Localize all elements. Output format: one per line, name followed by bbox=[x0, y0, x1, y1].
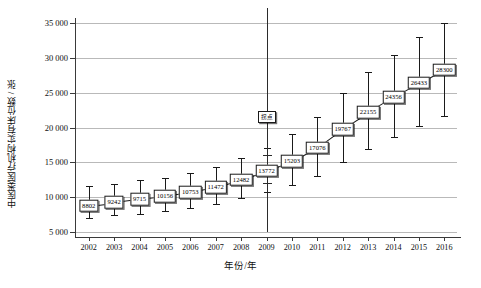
turning-point-cap bbox=[263, 183, 272, 184]
data-label-box: 28300 bbox=[433, 63, 455, 76]
error-bar-cap-lower bbox=[238, 198, 245, 199]
data-label-box: 19767 bbox=[331, 123, 353, 136]
y-axis-tick bbox=[70, 128, 76, 129]
data-label-box: 9242 bbox=[105, 196, 124, 209]
x-axis-tick-label: 2010 bbox=[284, 243, 300, 252]
error-bar-cap-lower bbox=[111, 215, 118, 216]
x-axis-tick-label: 2002 bbox=[81, 243, 97, 252]
error-bar-cap-lower bbox=[213, 204, 220, 205]
y-axis-tick bbox=[70, 232, 76, 233]
error-bar-cap-upper bbox=[416, 37, 423, 38]
error-bar-cap-lower bbox=[289, 185, 296, 186]
x-axis-tick bbox=[368, 237, 369, 241]
data-label-box: 11472 bbox=[205, 181, 227, 194]
x-axis-tick bbox=[165, 237, 166, 241]
error-bar-cap-upper bbox=[441, 23, 448, 24]
error-bar-cap-upper bbox=[162, 178, 169, 179]
x-axis-tick-label: 2016 bbox=[436, 243, 452, 252]
data-label-box: 13772 bbox=[255, 165, 277, 178]
data-label-box: 10156 bbox=[154, 190, 176, 203]
x-axis-tick bbox=[343, 237, 344, 241]
y-axis-tick bbox=[70, 162, 76, 163]
x-axis-tick bbox=[317, 237, 318, 241]
x-axis-tick-label: 2004 bbox=[131, 243, 147, 252]
y-axis-tick bbox=[70, 93, 76, 94]
x-axis-tick bbox=[241, 237, 242, 241]
error-bar-cap-upper bbox=[314, 117, 321, 118]
error-bar-cap-lower bbox=[187, 208, 194, 209]
x-axis-tick bbox=[114, 237, 115, 241]
x-axis-tick bbox=[419, 237, 420, 241]
data-label-box: 10753 bbox=[179, 186, 201, 199]
data-label-box: 12482 bbox=[230, 174, 252, 187]
chart-overlay: 2002200320042005200620072008200920102011… bbox=[0, 0, 481, 288]
error-bar-cap-upper bbox=[365, 72, 372, 73]
x-axis-tick-label: 2012 bbox=[335, 243, 351, 252]
error-bar-cap-upper bbox=[391, 55, 398, 56]
data-label-box: 24356 bbox=[382, 91, 404, 104]
x-axis-tick-label: 2013 bbox=[360, 243, 376, 252]
error-bar-cap-lower bbox=[391, 137, 398, 138]
error-bar-cap-lower bbox=[162, 211, 169, 212]
data-label-box: 8802 bbox=[79, 199, 98, 212]
error-bar-cap-upper bbox=[137, 180, 144, 181]
data-label-box: 26433 bbox=[408, 76, 430, 89]
x-axis-tick-label: 2008 bbox=[233, 243, 249, 252]
x-axis-tick bbox=[444, 237, 445, 241]
annotation-turning-point: 拐点 bbox=[258, 111, 276, 123]
data-label-box: 15203 bbox=[281, 155, 303, 168]
x-axis-tick bbox=[89, 237, 90, 241]
x-axis-tick bbox=[140, 237, 141, 241]
x-axis-tick-label: 2015 bbox=[411, 243, 427, 252]
x-axis-tick-label: 2006 bbox=[182, 243, 198, 252]
error-bar-cap-lower bbox=[365, 149, 372, 150]
turning-point-cap bbox=[263, 155, 272, 156]
data-label-box: 9715 bbox=[130, 193, 149, 206]
x-axis-tick-label: 2003 bbox=[106, 243, 122, 252]
data-label-box: 22155 bbox=[357, 106, 379, 119]
error-bar-cap-lower bbox=[314, 176, 321, 177]
error-bar-cap-upper bbox=[111, 184, 118, 185]
y-axis-tick bbox=[70, 23, 76, 24]
x-axis-tick-label: 2011 bbox=[309, 243, 325, 252]
error-bar-cap-lower bbox=[340, 162, 347, 163]
error-bar-cap-lower bbox=[416, 126, 423, 127]
error-bar-cap-upper bbox=[238, 158, 245, 159]
y-axis-tick bbox=[70, 58, 76, 59]
data-label-box: 17076 bbox=[306, 142, 328, 155]
x-axis-tick-label: 2009 bbox=[258, 243, 274, 252]
error-bar-cap-upper bbox=[213, 167, 220, 168]
error-bar-cap-upper bbox=[340, 93, 347, 94]
x-axis-tick bbox=[216, 237, 217, 241]
y-axis-tick bbox=[70, 197, 76, 198]
x-axis-tick-label: 2005 bbox=[157, 243, 173, 252]
x-axis-tick bbox=[190, 237, 191, 241]
error-bar-cap-lower bbox=[137, 214, 144, 215]
x-axis-tick bbox=[292, 237, 293, 241]
error-bar-cap-lower bbox=[86, 218, 93, 219]
error-bar-cap-lower bbox=[441, 116, 448, 117]
error-bar-cap-upper bbox=[187, 173, 194, 174]
x-axis-tick-label: 2014 bbox=[385, 243, 401, 252]
error-bar-cap-upper bbox=[86, 186, 93, 187]
chart-container: 中医类医疗机构实有床位数 / 张 年份/年 35 00030 00025 000… bbox=[0, 0, 481, 288]
x-axis-tick-label: 2007 bbox=[208, 243, 224, 252]
x-axis-tick bbox=[394, 237, 395, 241]
x-axis-tick bbox=[267, 237, 268, 241]
error-bar-cap-upper bbox=[289, 134, 296, 135]
